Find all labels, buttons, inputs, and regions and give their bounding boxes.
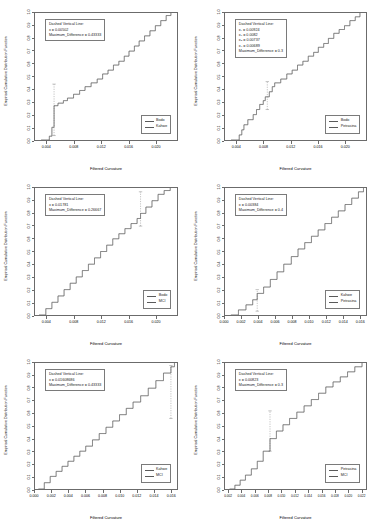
- legend-label: Bodo: [156, 119, 165, 123]
- x-tick-mark: [34, 490, 35, 493]
- y-tick-label: 0.0: [26, 139, 30, 144]
- y-axis-label-text: Empirical Cumulative Distribution Functi…: [194, 211, 198, 281]
- y-tick-label: 1.0: [26, 185, 30, 190]
- x-tick-label: 0.002: [224, 494, 232, 498]
- y-tick-label: 0.8: [26, 210, 30, 215]
- y-axis-ticks: 0.00.10.20.30.40.50.60.70.80.91.0: [208, 12, 224, 141]
- legend: BodoPetrasina: [325, 115, 360, 134]
- y-tick-label: 0.1: [26, 301, 30, 306]
- y-tick-label: 0.5: [216, 74, 220, 79]
- legend-label: Petrasina: [341, 468, 357, 472]
- y-axis-label: Empirical Cumulative Distribution Functi…: [191, 350, 201, 490]
- y-tick-label: 0.1: [216, 126, 220, 131]
- y-tick-label: 0.6: [216, 61, 220, 66]
- y-tick-label: 0.3: [216, 100, 220, 105]
- y-tick-label: 0.2: [216, 462, 220, 467]
- y-tick-label: 0.4: [26, 262, 30, 267]
- x-tick-label: 0.020: [341, 145, 350, 149]
- y-tick-label: 0.3: [26, 449, 30, 454]
- y-tick-label: 0.7: [216, 223, 220, 228]
- y-tick-label: 0.5: [26, 424, 30, 429]
- x-tick-mark: [362, 490, 363, 493]
- y-tick-label: 0.5: [216, 249, 220, 254]
- y-tick-label: 0.7: [26, 223, 30, 228]
- y-tick-label: 0.8: [26, 385, 30, 390]
- x-tick-label: 0.012: [322, 320, 331, 324]
- legend-label: MCI: [156, 474, 163, 478]
- x-tick-mark: [103, 490, 104, 493]
- plot-area: Dashed Vertical Line:x = 0.00502Maximum_…: [34, 12, 178, 141]
- ecdf-panel-grid: Empirical Cumulative Distribution Functi…: [0, 0, 379, 524]
- y-tick-label: 0.5: [216, 424, 220, 429]
- annotation-max-difference: Maximum_Difference = 0.3: [239, 49, 283, 54]
- legend-item: MCI: [145, 473, 168, 479]
- x-tick-label: 0.004: [42, 145, 51, 149]
- x-tick-label: 0.014: [304, 494, 312, 498]
- x-tick-mark: [154, 490, 155, 493]
- plot-area: Dashed Vertical Line:x = 0.00384Maximum_…: [224, 187, 367, 316]
- x-tick-label: 0.002: [237, 320, 246, 324]
- y-tick-label: 0.6: [26, 236, 30, 241]
- x-tick-label: 0.012: [97, 320, 106, 324]
- y-tick-label: 0.2: [216, 113, 220, 118]
- x-tick-label: 0.004: [42, 320, 51, 324]
- y-axis-label: Empirical Cumulative Distribution Functi…: [1, 0, 11, 141]
- x-tick-label: 0.020: [152, 145, 161, 149]
- x-tick-label: 0.016: [124, 145, 133, 149]
- dashed-line-annotation: Dashed Vertical Line:x = 0.00823Maximum_…: [235, 369, 287, 391]
- x-tick-mark: [101, 141, 102, 144]
- dashed-line-annotation: Dashed Vertical Line:x = 0.00502Maximum_…: [45, 19, 105, 41]
- y-tick-label: 0.9: [26, 372, 30, 377]
- x-tick-mark: [68, 490, 69, 493]
- y-axis-label-text: Empirical Cumulative Distribution Functi…: [4, 211, 8, 281]
- y-tick-label: 0.3: [26, 275, 30, 280]
- x-tick-mark: [360, 316, 361, 319]
- y-tick-label: 0.5: [26, 74, 30, 79]
- dashed-line-annotation: Dashed Vertical Line:x = 0.01781Maximum_…: [45, 194, 105, 216]
- legend-line-swatch: [145, 127, 154, 128]
- x-tick-mark: [275, 316, 276, 319]
- legend-item: Kahwe: [145, 124, 168, 130]
- x-tick-mark: [348, 490, 349, 493]
- y-tick-label: 0.9: [26, 197, 30, 202]
- x-tick-label: 0.010: [305, 320, 314, 324]
- x-tick-mark: [292, 316, 293, 319]
- x-tick-label: 0.020: [344, 494, 352, 498]
- y-tick-label: 0.9: [216, 372, 220, 377]
- x-tick-label: 0.008: [98, 494, 107, 498]
- x-tick-label: 0.008: [69, 145, 78, 149]
- legend-line-swatch: [145, 470, 154, 471]
- x-tick-mark: [129, 316, 130, 319]
- x-tick-mark: [291, 141, 292, 144]
- legend-line-swatch: [329, 470, 338, 471]
- y-axis-label: Empirical Cumulative Distribution Functi…: [191, 175, 201, 316]
- x-axis-ticks: 0.0040.0080.0120.0160.020: [34, 141, 178, 153]
- plot-area: Dashed Vertical Line:x₁ = 0.00924x₂ = 0.…: [224, 12, 367, 141]
- x-tick-mark: [74, 316, 75, 319]
- legend-label: Bodo: [341, 119, 350, 123]
- y-tick-label: 0.6: [26, 411, 30, 416]
- x-axis-ticks: 0.0000.0020.0040.0060.0080.0100.0120.014…: [34, 490, 178, 502]
- legend-label: Bodo: [159, 294, 168, 298]
- y-tick-label: 0.8: [26, 35, 30, 40]
- x-tick-label: 0.012: [291, 494, 299, 498]
- y-axis-ticks: 0.00.10.20.30.40.50.60.70.80.91.0: [18, 187, 34, 316]
- x-tick-label: 0.012: [97, 145, 106, 149]
- x-tick-label: 0.000: [220, 320, 229, 324]
- x-tick-label: 0.002: [47, 494, 56, 498]
- x-tick-label: 0.008: [264, 494, 272, 498]
- x-tick-mark: [268, 490, 269, 493]
- y-tick-label: 0.9: [216, 22, 220, 27]
- x-tick-mark: [345, 141, 346, 144]
- plot-area: Dashed Vertical Line:x = 0.01781Maximum_…: [34, 187, 178, 316]
- plot-frame: Dashed Vertical Line:x = 0.00823Maximum_…: [224, 362, 367, 490]
- x-tick-mark: [308, 490, 309, 493]
- y-axis-label-text: Empirical Cumulative Distribution Functi…: [4, 36, 8, 106]
- legend-line-swatch: [329, 302, 338, 303]
- x-tick-mark: [309, 316, 310, 319]
- y-axis-label-text: Empirical Cumulative Distribution Functi…: [194, 385, 198, 455]
- x-axis-ticks: 0.0020.0040.0060.0080.0100.0120.0140.016…: [224, 490, 367, 502]
- x-tick-mark: [46, 141, 47, 144]
- x-tick-label: 0.016: [356, 320, 365, 324]
- y-tick-label: 1.0: [26, 360, 30, 365]
